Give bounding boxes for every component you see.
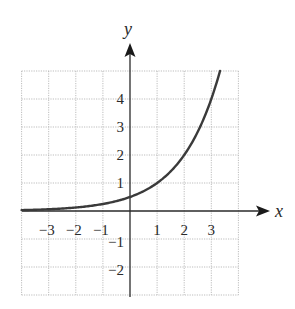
y-tick-label: 4 [117, 91, 125, 107]
x-tick-label: 3 [208, 222, 216, 238]
x-tick-label: −3 [39, 222, 55, 238]
x-tick-label: −1 [93, 222, 109, 238]
y-tick-label: 2 [117, 147, 125, 163]
graph-canvas: −3−2−1123−2−11234 x y [0, 0, 295, 309]
y-tick-label: −1 [108, 234, 124, 250]
axes [22, 43, 270, 297]
y-tick-label: 3 [117, 119, 125, 135]
tick-labels: −3−2−1123−2−11234 [39, 91, 215, 278]
y-tick-label: −2 [108, 262, 124, 278]
x-tick-label: 2 [180, 222, 188, 238]
x-tick-label: 1 [153, 222, 161, 238]
y-tick-label: 1 [117, 175, 125, 191]
x-axis-label: x [274, 201, 283, 221]
y-axis-label: y [122, 19, 132, 39]
x-tick-label: −2 [66, 222, 82, 238]
